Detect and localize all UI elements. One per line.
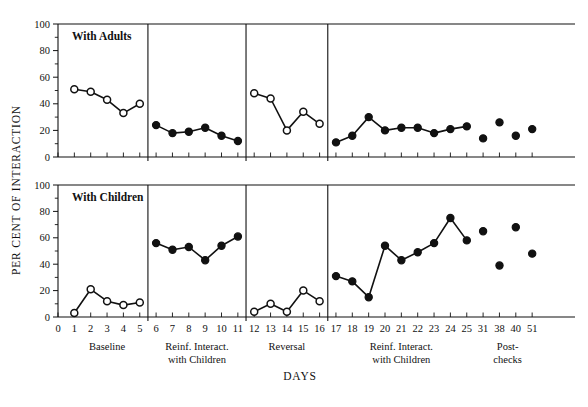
x-tick-label: 22 (412, 323, 423, 334)
data-point-closed (332, 139, 339, 146)
data-point-open (120, 110, 127, 117)
data-point-closed (529, 250, 536, 257)
phase-label: Post- (497, 341, 519, 352)
data-point-closed (153, 240, 160, 247)
data-point-open (136, 100, 143, 107)
phase-label: Reinf. Interact. (370, 341, 433, 352)
data-point-open (316, 120, 323, 127)
data-point-closed (332, 273, 339, 280)
data-point-closed (447, 126, 454, 133)
x-tick-label: 9 (203, 323, 208, 334)
data-point-closed (431, 240, 438, 247)
data-point-open (283, 127, 290, 134)
x-tick-label: 7 (170, 323, 175, 334)
data-point-closed (512, 224, 519, 231)
panel-with-adults: 020406080100With Adults (34, 19, 575, 163)
panel-title: With Adults (72, 30, 132, 42)
data-point-closed (218, 242, 225, 249)
panel-with-children: 020406080100With Children (34, 180, 575, 323)
phase-label-line2: with Children (372, 354, 431, 365)
x-tick-label: 6 (153, 323, 158, 334)
data-point-closed (185, 128, 192, 135)
data-point-closed (529, 126, 536, 133)
x-tick-label: 12 (249, 323, 260, 334)
data-point-closed (463, 237, 470, 244)
phase-label-line2: checks (493, 354, 522, 365)
data-point-open (71, 86, 78, 93)
data-point-open (316, 298, 323, 305)
x-tick-label: 51 (527, 323, 538, 334)
data-point-closed (153, 122, 160, 129)
data-point-closed (349, 132, 356, 139)
x-tick-label: 16 (314, 323, 325, 334)
x-tick-label: 1 (72, 323, 77, 334)
series-line (254, 93, 319, 130)
x-tick-label: 3 (104, 323, 109, 334)
y-tick-label: 0 (45, 312, 50, 323)
phase-labels: BaselineReinf. Interact.with ChildrenRev… (89, 341, 522, 365)
data-point-open (283, 308, 290, 315)
data-point-closed (496, 119, 503, 126)
y-tick-label: 100 (34, 19, 50, 30)
x-axis-labels: 0123456789101112131415161718192021222324… (55, 323, 537, 334)
series-line (156, 237, 238, 261)
y-tick-label: 40 (40, 259, 51, 270)
data-point-closed (496, 262, 503, 269)
data-point-closed (463, 123, 470, 130)
x-tick-label: 19 (363, 323, 374, 334)
x-tick-label: 11 (233, 323, 243, 334)
data-point-closed (349, 278, 356, 285)
x-tick-label: 13 (265, 323, 276, 334)
data-point-closed (365, 114, 372, 121)
data-point-open (251, 90, 258, 97)
data-point-closed (381, 127, 388, 134)
panel-title: With Children (72, 191, 144, 203)
data-point-open (136, 299, 143, 306)
data-point-open (87, 286, 94, 293)
x-tick-label: 17 (331, 323, 342, 334)
data-point-closed (414, 249, 421, 256)
data-point-closed (381, 242, 388, 249)
data-point-open (267, 95, 274, 102)
y-tick-label: 60 (40, 72, 51, 83)
y-tick-label: 100 (34, 180, 50, 191)
x-tick-label: 10 (216, 323, 227, 334)
data-point-closed (218, 132, 225, 139)
x-tick-label: 31 (478, 323, 489, 334)
x-tick-label: 20 (380, 323, 391, 334)
data-point-open (104, 298, 111, 305)
data-point-open (120, 302, 127, 309)
data-point-closed (202, 124, 209, 131)
data-point-open (300, 287, 307, 294)
x-tick-label: 5 (137, 323, 142, 334)
x-tick-label: 2 (88, 323, 93, 334)
x-tick-label: 15 (298, 323, 309, 334)
data-point-closed (480, 135, 487, 142)
y-tick-label: 80 (40, 45, 51, 56)
x-tick-label: 38 (494, 323, 505, 334)
data-point-closed (169, 130, 176, 137)
data-point-closed (398, 257, 405, 264)
x-tick-label: 14 (282, 323, 293, 334)
data-point-closed (480, 228, 487, 235)
x-tick-label: 0 (55, 323, 60, 334)
y-tick-label: 0 (45, 152, 50, 163)
phase-label-line2: with Children (168, 354, 227, 365)
data-point-closed (234, 233, 241, 240)
x-tick-label: 21 (396, 323, 407, 334)
phase-label: Reinf. Interact. (165, 341, 228, 352)
data-point-open (87, 88, 94, 95)
chart-figure: 020406080100With Adults020406080100With … (0, 0, 588, 407)
data-point-open (104, 96, 111, 103)
data-point-closed (512, 132, 519, 139)
data-point-closed (202, 257, 209, 264)
y-tick-label: 60 (40, 232, 51, 243)
x-tick-label: 25 (462, 323, 473, 334)
y-tick-label: 20 (40, 285, 51, 296)
x-tick-label: 23 (429, 323, 440, 334)
data-point-open (251, 308, 258, 315)
x-tick-label: 4 (121, 323, 127, 334)
data-point-closed (447, 214, 454, 221)
data-point-open (300, 108, 307, 115)
x-tick-label: 8 (186, 323, 191, 334)
